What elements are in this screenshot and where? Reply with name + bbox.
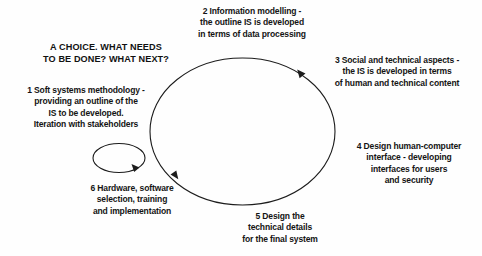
step-label-1: 1 Soft systems methodology - providing a… [6,85,166,130]
step-label-2: 2 Information modelling - the outline IS… [181,6,322,40]
step-label-3: 3 Social and technical aspects - the IS … [318,55,476,89]
diagram-canvas: A CHOICE. WHAT NEEDS TO BE DONE? WHAT NE… [0,0,482,256]
page-title: A CHOICE. WHAT NEEDS TO BE DONE? WHAT NE… [22,41,189,66]
step-label-5: 5 Design the technical details for the f… [224,211,336,245]
step-label-4: 4 Design human-computer interface - deve… [341,141,477,186]
main-cycle-arrowhead-lower-left [171,170,179,179]
step-label-6: 6 Hardware, software selection, training… [67,183,197,217]
